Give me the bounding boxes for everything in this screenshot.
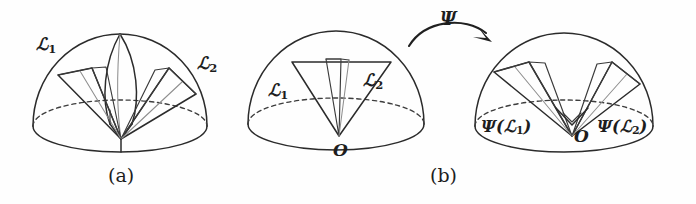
left-wedge-ray-a (80, 71, 121, 139)
figure-drawing (0, 0, 696, 204)
cone-cap-b1 (326, 59, 349, 60)
label-origin-panel-b-left: O (333, 142, 348, 159)
label-psi-l2: Ψ(ℒ2) (597, 119, 647, 136)
panel-a-cones (58, 34, 196, 152)
left-wedge-outer-a (58, 68, 121, 139)
right-wedge-ray-a (121, 82, 182, 139)
right-wedge-rim-b2 (612, 62, 640, 84)
figure-container: ℒ1 ℒ2 (a) ℒ1 ℒ2 O Ψ Ψ(ℒ1) O Ψ(ℒ2) (b) (0, 0, 696, 204)
left-wedge-rim-a (58, 68, 92, 75)
caption-panel-b: (b) (430, 166, 457, 185)
label-cone-l2-panel-a: ℒ2 (197, 55, 217, 74)
label-origin-panel-b-right: O (574, 128, 589, 145)
label-psi-l1: Ψ(ℒ1) (481, 119, 531, 136)
label-cone-l1-panel-a: ℒ1 (36, 36, 56, 55)
central-spindle-right-edge-a (120, 34, 136, 124)
left-wedge-rim-b2 (494, 62, 529, 72)
dome-arc-b2 (475, 33, 653, 126)
dome-arc-b1 (248, 31, 424, 124)
caption-panel-a: (a) (108, 166, 134, 185)
label-cone-l2-panel-b: ℒ2 (363, 72, 383, 91)
label-psi-map: Ψ (440, 10, 456, 28)
label-cone-l1-panel-b: ℒ1 (268, 82, 288, 101)
left-wedge-inner-b2 (529, 62, 572, 136)
